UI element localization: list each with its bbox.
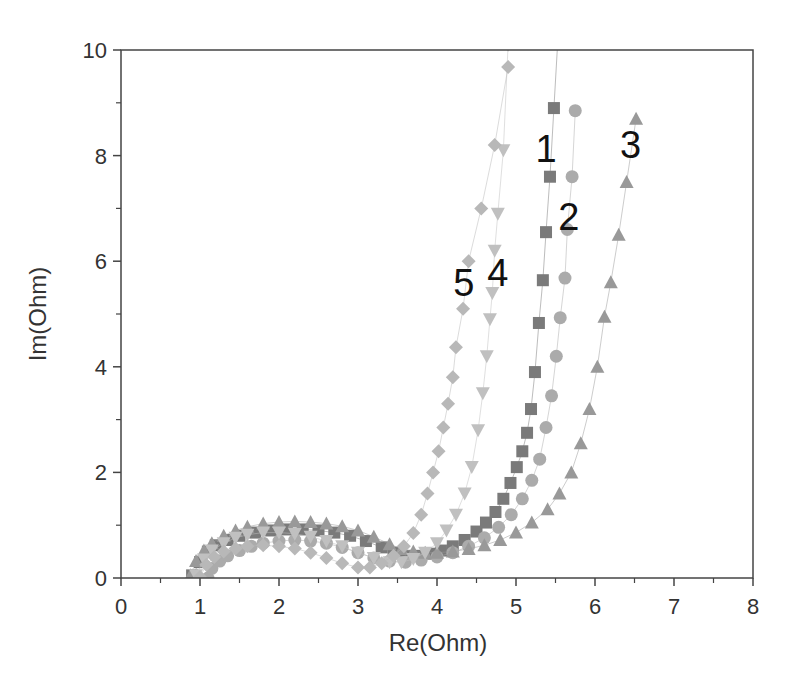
x-tick-label: 6	[589, 594, 601, 619]
data-point-square	[552, 33, 564, 45]
curve-label-2: 2	[558, 196, 579, 238]
data-point-triangle-down	[465, 461, 479, 474]
data-point-square	[525, 403, 537, 415]
data-point-triangle-up	[590, 360, 604, 373]
y-tick-label: 0	[95, 566, 107, 591]
data-point-triangle-down	[458, 488, 472, 501]
data-point-triangle-up	[564, 465, 578, 478]
data-point-diamond	[446, 370, 460, 384]
data-point-square	[511, 461, 523, 473]
x-tick-label: 3	[352, 594, 364, 619]
data-point-circle	[558, 272, 571, 285]
data-point-circle	[566, 170, 579, 183]
x-tick-label: 5	[510, 594, 522, 619]
data-point-diamond	[319, 551, 333, 565]
data-point-triangle-down	[439, 524, 453, 537]
axes: 0123456780246810	[83, 38, 760, 619]
x-tick-label: 4	[431, 594, 443, 619]
data-point-square	[540, 226, 552, 238]
data-point-circle	[516, 492, 529, 505]
x-tick-label: 1	[194, 594, 206, 619]
data-point-circle	[533, 453, 546, 466]
y-axis-label: Im(Ohm)	[24, 267, 51, 362]
data-point-circle	[550, 350, 563, 363]
series-5	[193, 60, 515, 584]
data-point-triangle-up	[493, 533, 507, 546]
data-point-triangle-up	[620, 175, 634, 188]
data-point-diamond	[406, 526, 420, 540]
data-point-square	[533, 317, 545, 329]
data-point-circle	[505, 508, 518, 521]
data-point-triangle-up	[604, 275, 618, 288]
data-point-square	[516, 445, 528, 457]
series-2	[201, 104, 581, 584]
data-point-diamond	[426, 465, 440, 479]
curve-label-4: 4	[487, 252, 508, 294]
data-point-diamond	[449, 340, 463, 354]
nyquist-plot: 0123456780246810 12345 Re(Ohm) Im(Ohm)	[0, 0, 797, 683]
data-point-triangle-up	[288, 515, 302, 528]
data-point-diamond	[474, 201, 488, 215]
data-point-diamond	[432, 444, 446, 458]
data-point-circle	[540, 421, 553, 434]
data-point-triangle-up	[629, 112, 643, 125]
data-point-triangle-down	[449, 509, 463, 522]
data-point-square	[544, 171, 556, 183]
y-tick-label: 8	[95, 144, 107, 169]
y-tick-label: 10	[83, 38, 107, 63]
data-point-square	[548, 102, 560, 114]
data-point-circle	[569, 104, 582, 117]
x-tick-label: 7	[668, 594, 680, 619]
data-point-triangle-up	[541, 502, 555, 515]
data-point-triangle-up	[574, 436, 588, 449]
data-point-triangle-down	[471, 424, 485, 437]
data-point-diamond	[414, 508, 428, 522]
series-1	[186, 33, 564, 581]
data-point-square	[480, 517, 492, 529]
data-point-square	[504, 477, 516, 489]
data-point-diamond	[335, 556, 349, 570]
data-point-triangle-up	[552, 487, 566, 500]
y-tick-label: 2	[95, 460, 107, 485]
x-tick-label: 8	[747, 594, 759, 619]
curve-label-3: 3	[620, 124, 641, 166]
x-tick-label: 0	[115, 594, 127, 619]
series-layer	[184, 33, 644, 584]
curve-label-1: 1	[535, 128, 556, 170]
y-tick-label: 6	[95, 249, 107, 274]
data-point-triangle-down	[483, 313, 497, 326]
x-axis-label: Re(Ohm)	[389, 629, 488, 656]
data-point-circle	[492, 521, 505, 534]
data-point-triangle-down	[476, 387, 490, 400]
data-point-diamond	[421, 487, 435, 501]
series-line	[191, 119, 637, 576]
data-point-triangle-up	[582, 402, 596, 415]
data-point-triangle-up	[597, 310, 611, 323]
data-point-circle	[525, 474, 538, 487]
data-point-circle	[545, 389, 558, 402]
data-point-triangle-down	[480, 350, 494, 363]
data-point-square	[521, 427, 533, 439]
data-point-triangle-up	[509, 526, 523, 539]
data-point-triangle-up	[525, 516, 539, 529]
data-point-triangle-down	[491, 208, 505, 221]
data-point-diamond	[304, 546, 318, 560]
data-point-circle	[554, 311, 567, 324]
data-point-diamond	[501, 60, 515, 74]
data-point-square	[537, 274, 549, 286]
data-point-square	[497, 493, 509, 505]
plot-frame	[121, 50, 753, 578]
data-point-diamond	[441, 397, 455, 411]
x-tick-label: 2	[273, 594, 285, 619]
data-point-square	[489, 506, 501, 518]
chart-canvas: 0123456780246810 12345 Re(Ohm) Im(Ohm)	[0, 0, 797, 683]
data-point-diamond	[436, 421, 450, 435]
curve-label-5: 5	[453, 262, 474, 304]
data-point-square	[529, 366, 541, 378]
y-tick-label: 4	[95, 355, 107, 380]
series-line	[208, 111, 575, 578]
data-point-triangle-up	[612, 228, 626, 241]
